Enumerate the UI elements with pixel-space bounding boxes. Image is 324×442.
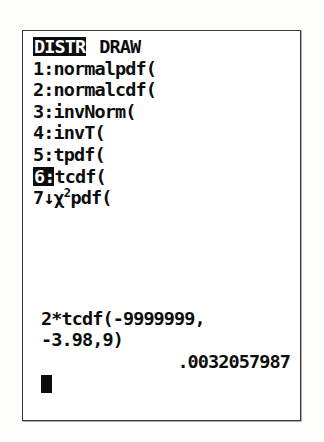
calculator-screen-frame: DISTR DRAW 1: normalpdf( 2: normalcdf( 3…	[22, 30, 301, 421]
menu-item-chisquarepdf[interactable]: 7↓ χ2pdf(	[33, 188, 296, 210]
menu-item-label: normalcdf(	[53, 80, 155, 100]
menu-item-label: invNorm(	[53, 102, 135, 122]
menu-item-marker: 1:	[33, 59, 53, 79]
home-screen-output: 2*tcdf(-9999999, -3.98,9) .0032057987	[33, 309, 296, 397]
entry-expression-line-2: -3.98,9)	[41, 330, 296, 352]
scanned-page-background: DISTR DRAW 1: normalpdf( 2: normalcdf( 3…	[0, 0, 324, 442]
cursor-row	[41, 374, 296, 397]
menu-item-tpdf[interactable]: 5: tpdf(	[33, 145, 296, 167]
menu-item-normalpdf[interactable]: 1: normalpdf(	[33, 59, 296, 81]
menu-item-label-suffix: pdf(	[70, 187, 111, 208]
menu-item-marker: 5:	[33, 145, 53, 165]
distr-menu-list: 1: normalpdf( 2: normalcdf( 3: invNorm( …	[33, 59, 296, 210]
chi-symbol: χ	[53, 187, 63, 208]
menu-item-marker-scroll-down: 7↓	[33, 188, 53, 208]
menu-item-marker: 2:	[33, 80, 53, 100]
menu-item-normalcdf[interactable]: 2: normalcdf(	[33, 80, 296, 102]
block-cursor-icon	[41, 375, 52, 393]
menu-item-invt[interactable]: 4: invT(	[33, 123, 296, 145]
menu-tab-bar: DISTR DRAW	[33, 37, 296, 59]
menu-item-label: tpdf(	[53, 145, 104, 165]
tab-draw[interactable]: DRAW	[99, 37, 140, 56]
menu-item-marker: 4:	[33, 123, 53, 143]
menu-item-tcdf-selected[interactable]: 6: tcdf(	[33, 167, 296, 189]
tab-distr[interactable]: DISTR	[33, 37, 86, 56]
calculator-lcd-screen[interactable]: DISTR DRAW 1: normalpdf( 2: normalcdf( 3…	[23, 31, 300, 420]
calculation-result: .0032057987	[41, 352, 296, 374]
menu-item-marker: 3:	[33, 102, 53, 122]
menu-item-label: invT(	[53, 123, 104, 143]
menu-item-label: tcdf(	[54, 167, 105, 187]
menu-item-label: χ2pdf(	[53, 188, 111, 208]
menu-item-invnorm[interactable]: 3: invNorm(	[33, 102, 296, 124]
entry-expression-line-1: 2*tcdf(-9999999,	[41, 309, 296, 331]
menu-item-marker-highlighted: 6:	[33, 167, 54, 187]
menu-item-label: normalpdf(	[53, 59, 155, 79]
lcd-blank-region	[33, 210, 296, 309]
